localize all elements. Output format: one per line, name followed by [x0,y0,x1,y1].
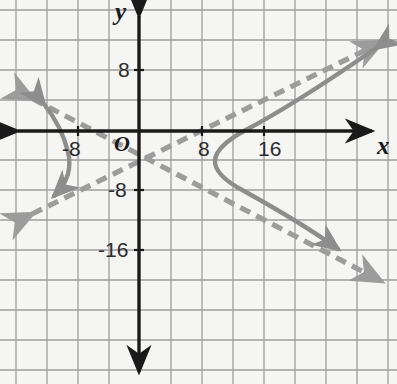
y-axis-label: y [115,0,126,26]
y-tick-label-8: 8 [118,58,130,82]
y-tick-label-neg8: -8 [108,178,127,202]
graph-figure: -8 8 16 8 -8 -16 O x y [0,0,397,384]
origin-label: O [114,131,130,157]
x-tick-label-8: 8 [198,137,210,161]
x-axis-label: x [377,132,390,160]
coordinate-plane-svg [0,0,397,384]
x-tick-label-16: 16 [258,137,281,161]
y-tick-label-neg16: -16 [98,238,128,262]
x-tick-label-neg8: -8 [62,137,81,161]
